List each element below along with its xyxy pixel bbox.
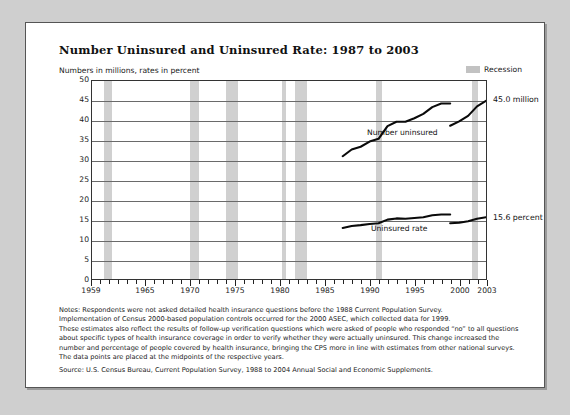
y-tick-label: 15: [71, 216, 89, 224]
x-tick: [109, 280, 110, 284]
plot-canvas: [91, 80, 487, 280]
x-tick: [379, 280, 380, 284]
x-tick: [316, 280, 317, 284]
y-axis-labels: 05101520253035404550: [69, 80, 89, 280]
plot-area: 05101520253035404550 1959196519701975198…: [69, 80, 509, 295]
x-tick: [289, 280, 290, 284]
y-tick-label: 40: [71, 116, 89, 124]
x-tick: [118, 280, 119, 284]
note-line-4: The data points are placed at the midpoi…: [59, 353, 525, 362]
notes-block: Notes: Respondents were not asked detail…: [59, 306, 525, 376]
x-tick: [442, 280, 443, 284]
y-tick-label: 45: [71, 96, 89, 104]
x-tick: [388, 280, 389, 284]
x-tick: [343, 280, 344, 284]
x-tick: [253, 280, 254, 284]
annotation-uninsured-rate: Uninsured rate: [371, 224, 427, 233]
x-tick: [172, 280, 173, 284]
legend-label-recession: Recession: [484, 65, 522, 74]
x-tick: [424, 280, 425, 284]
x-tick: [262, 280, 263, 284]
x-tick: [271, 280, 272, 284]
y-tick-label: 0: [71, 276, 89, 284]
x-tick: [406, 280, 407, 284]
y-tick-label: 35: [71, 136, 89, 144]
y-tick-label: 25: [71, 176, 89, 184]
x-tick-label: 1959: [81, 286, 100, 295]
x-tick-label: 2003: [477, 286, 496, 295]
x-tick: [361, 280, 362, 284]
x-tick: [163, 280, 164, 284]
x-tick-label: 1975: [225, 286, 244, 295]
page-title: Number Uninsured and Uninsured Rate: 198…: [59, 43, 419, 57]
annotation-number-uninsured: Number uninsured: [367, 128, 438, 137]
x-tick: [217, 280, 218, 284]
x-tick: [334, 280, 335, 284]
x-tick-label: 1980: [270, 286, 289, 295]
x-tick: [127, 280, 128, 284]
x-tick: [298, 280, 299, 284]
x-tick: [154, 280, 155, 284]
y-tick-label: 30: [71, 156, 89, 164]
x-tick: [469, 280, 470, 284]
x-tick-label: 1990: [360, 286, 379, 295]
x-tick: [397, 280, 398, 284]
source-line: Source: U.S. Census Bureau, Current Popu…: [59, 366, 525, 375]
x-tick-label: 1995: [405, 286, 424, 295]
series-paths: [92, 81, 486, 279]
x-tick: [181, 280, 182, 284]
chart-card: Number Uninsured and Uninsured Rate: 198…: [25, 22, 545, 388]
x-tick-label: 1965: [135, 286, 154, 295]
note-line-2: Implementation of Census 2000-based popu…: [59, 315, 525, 324]
x-tick: [352, 280, 353, 284]
x-tick: [208, 280, 209, 284]
x-tick: [100, 280, 101, 284]
x-tick: [226, 280, 227, 284]
axis-units-note: Numbers in millions, rates in percent: [59, 66, 200, 75]
x-tick: [244, 280, 245, 284]
y-tick-label: 20: [71, 196, 89, 204]
y-tick-label: 10: [71, 236, 89, 244]
x-tick-label: 2000: [450, 286, 469, 295]
y-tick-label: 5: [71, 256, 89, 264]
end-label-number-uninsured: 45.0 million: [493, 95, 539, 104]
recession-swatch-icon: [466, 66, 480, 73]
end-label-uninsured-rate: 15.6 percent: [493, 213, 543, 222]
note-line-3: These estimates also reflect the results…: [59, 325, 525, 353]
x-tick: [478, 280, 479, 284]
x-tick: [307, 280, 308, 284]
y-tick-label: 50: [71, 76, 89, 84]
x-tick: [451, 280, 452, 284]
x-tick-label: 1970: [180, 286, 199, 295]
x-tick: [199, 280, 200, 284]
x-tick: [433, 280, 434, 284]
legend: Recession: [466, 65, 522, 74]
x-tick: [136, 280, 137, 284]
x-axis: 1959196519701975198019851990199520002003: [91, 280, 487, 296]
x-tick-label: 1985: [315, 286, 334, 295]
note-line-1: Notes: Respondents were not asked detail…: [59, 306, 525, 315]
